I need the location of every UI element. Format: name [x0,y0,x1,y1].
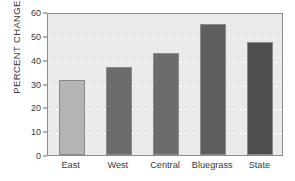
bar-state [247,42,273,155]
bar-east [59,80,85,155]
y-tick-mark [43,132,47,133]
bar-bluegrass [200,24,226,155]
y-tick-label: 30 [22,80,41,89]
bars-group [48,14,282,155]
x-tick-label: Central [141,159,188,171]
y-tick-label: 40 [22,56,41,65]
x-tick-label: West [94,159,141,171]
y-tick-mark [43,108,47,109]
x-tick-label: East [47,159,94,171]
bar-central [153,53,179,155]
y-tick-mark [43,84,47,85]
x-axis-tick-labels: EastWestCentralBluegrassState [47,159,283,173]
y-tick-mark [43,60,47,61]
y-tick-label: 60 [22,9,41,18]
x-tick-label: Bluegrass [189,159,236,171]
bar-chart: PERCENT CHANGE 0102030405060 EastWestCen… [0,0,295,181]
bar-west [106,67,132,155]
y-axis-tick-labels: 0102030405060 [22,13,41,156]
y-tick-mark [43,156,47,157]
y-tick-label: 10 [22,128,41,137]
y-tick-mark [43,36,47,37]
x-tick-label: State [236,159,283,171]
plot-area [47,13,283,156]
y-tick-mark [43,13,47,14]
y-tick-label: 50 [22,32,41,41]
y-tick-label: 20 [22,104,41,113]
y-tick-label: 0 [22,152,41,161]
